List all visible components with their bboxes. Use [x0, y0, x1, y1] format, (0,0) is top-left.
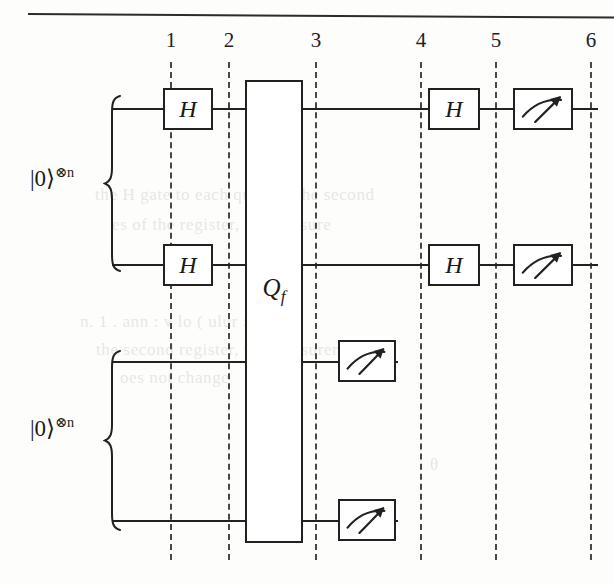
- column-label-4: 4: [410, 28, 432, 53]
- lower-register-brace: [103, 350, 123, 531]
- column-divider-2: [228, 62, 230, 560]
- column-divider-5: [495, 62, 497, 560]
- background-text-line: θ: [430, 455, 439, 475]
- oracle-label-base: Q: [263, 274, 281, 301]
- hadamard-gate-label: H: [445, 97, 462, 121]
- meter-icon: [340, 342, 394, 380]
- background-text-line: oes not change: [120, 368, 229, 388]
- meter-icon: [340, 501, 394, 539]
- lower-register-ket-label: |0⟩⊗n: [30, 414, 74, 442]
- hadamard-gate-label: H: [445, 253, 462, 277]
- upper-register-ket-label: |0⟩⊗n: [30, 164, 74, 192]
- measurement-gate-wire1[interactable]: [513, 88, 573, 130]
- hadamard-gate-wire1-col1[interactable]: H: [163, 88, 213, 130]
- column-divider-4: [420, 62, 422, 560]
- background-text-line: the second register, the measurement: [96, 340, 369, 360]
- measurement-gate-wire3[interactable]: [338, 340, 396, 382]
- column-label-6: 6: [580, 28, 602, 53]
- column-label-1: 1: [160, 28, 182, 53]
- column-divider-6: [590, 62, 592, 560]
- column-divider-3: [315, 62, 317, 560]
- upper-register-brace: [103, 95, 123, 272]
- column-label-5: 5: [485, 28, 507, 53]
- hadamard-gate-wire2-col4[interactable]: H: [428, 244, 480, 286]
- measurement-gate-wire2[interactable]: [513, 244, 573, 286]
- oracle-label-subscript: f: [281, 287, 286, 306]
- meter-icon: [515, 246, 571, 284]
- ket-exponent: ⊗n: [55, 414, 74, 430]
- ket-base: |0⟩: [30, 416, 55, 441]
- column-label-2: 2: [218, 28, 240, 53]
- lower-register-brace-wrap: [103, 350, 123, 535]
- hadamard-gate-label: H: [179, 253, 196, 277]
- ket-base: |0⟩: [30, 166, 55, 191]
- column-label-3: 3: [305, 28, 327, 53]
- column-divider-1: [170, 62, 172, 560]
- measurement-gate-wire4[interactable]: [338, 499, 396, 541]
- ket-exponent: ⊗n: [55, 164, 74, 180]
- oracle-gate[interactable]: [245, 80, 303, 543]
- hadamard-gate-label: H: [179, 97, 196, 121]
- hadamard-gate-wire2-col1[interactable]: H: [163, 244, 213, 286]
- meter-icon: [515, 90, 571, 128]
- background-text-line: the H gate to each qubit of the second: [95, 185, 375, 205]
- hadamard-gate-wire1-col4[interactable]: H: [428, 88, 480, 130]
- oracle-gate-label: Qf: [263, 274, 286, 307]
- page-top-rule: [28, 13, 614, 19]
- figure-canvas: λthe H gate to each qubit of the seconde…: [0, 0, 614, 585]
- upper-register-brace-wrap: [103, 95, 123, 276]
